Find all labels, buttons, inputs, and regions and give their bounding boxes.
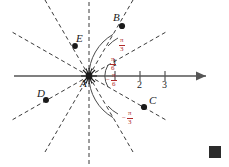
angle-label-neg-pi-over-6-numerator: π xyxy=(111,72,117,79)
end-of-proof-square xyxy=(209,146,221,158)
axis-tick-label-3: 3 xyxy=(162,80,167,90)
axis-tick-label-2: 2 xyxy=(137,80,142,90)
point-label-c: C xyxy=(149,95,156,106)
figure-canvas: A B C D E 1 2 3 π 3 π 6 − π 6 − π 3 xyxy=(0,0,229,167)
point-b-marker xyxy=(119,23,125,29)
angle-label-neg-pi-over-6-sign: − xyxy=(106,77,110,84)
angle-label-neg-pi-over-3-numerator: π xyxy=(127,110,133,117)
angle-label-pi-over-3-numerator: π xyxy=(119,37,125,44)
outer-arc-cap-top xyxy=(108,38,118,46)
angle-label-neg-pi-over-3-denominator: 3 xyxy=(127,119,133,126)
polar-axis-arrowhead xyxy=(196,72,206,81)
angle-label-neg-pi-over-6: − π 6 xyxy=(106,72,117,88)
point-label-e: E xyxy=(76,33,83,44)
point-c-marker xyxy=(141,104,147,110)
angle-label-neg-pi-over-3: − π 3 xyxy=(122,110,133,126)
point-label-b: B xyxy=(113,12,120,23)
angle-label-pi-over-6: π 6 xyxy=(110,56,116,72)
point-label-d: D xyxy=(37,88,45,99)
angle-label-neg-pi-over-3-sign: − xyxy=(122,115,126,122)
ray-210deg xyxy=(12,76,89,120)
ray-30deg xyxy=(89,32,166,76)
outer-arc-cap-bottom xyxy=(108,106,118,114)
point-label-a: A xyxy=(80,78,87,89)
angle-label-pi-over-3: π 3 xyxy=(119,37,125,53)
angle-label-pi-over-6-numerator: π xyxy=(110,56,116,63)
angle-label-neg-pi-over-6-denominator: 6 xyxy=(111,81,117,88)
angle-label-pi-over-3-denominator: 3 xyxy=(119,46,125,53)
